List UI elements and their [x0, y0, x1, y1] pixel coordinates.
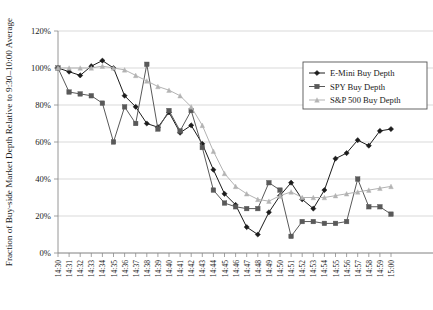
y-axis-title: Fraction of Buy-side Market Depth Relati… [4, 18, 14, 266]
data-point-marker [322, 221, 327, 226]
data-point-marker [344, 219, 349, 224]
y-tick-label: 100% [31, 63, 51, 73]
data-point-marker [244, 206, 249, 211]
x-axis: 14:3014:3114:3214:3314:3414:3514:3614:37… [54, 253, 433, 277]
data-point-marker [355, 177, 360, 182]
data-point-marker [311, 219, 316, 224]
y-tick-label: 20% [35, 211, 51, 221]
x-tick-label: 14:43 [198, 260, 207, 278]
x-tick-label: 14:52 [298, 260, 307, 278]
data-point-marker [278, 188, 283, 193]
data-point-marker [289, 234, 294, 239]
x-tick-label: 14:48 [254, 260, 263, 278]
x-tick-label: 14:41 [176, 260, 185, 278]
x-tick-label: 14:42 [187, 260, 196, 278]
data-point-marker [267, 180, 272, 185]
y-tick-label: 120% [31, 26, 51, 36]
x-tick-label: 14:47 [243, 260, 252, 278]
x-tick-label: 14:56 [343, 260, 352, 278]
data-point-marker [315, 84, 320, 89]
x-tick-label: 14:57 [354, 260, 363, 278]
data-point-marker [189, 123, 194, 128]
x-tick-label: 15:00 [387, 260, 396, 278]
data-point-marker [322, 188, 327, 193]
data-point-marker [122, 105, 127, 110]
data-point-marker [222, 171, 227, 176]
data-point-marker [100, 58, 105, 63]
x-tick-label: 14:44 [209, 260, 218, 278]
y-tick-label: 0% [40, 248, 51, 258]
data-point-marker [78, 92, 83, 97]
y-tick-label: 60% [35, 137, 51, 147]
x-tick-label: 14:46 [232, 260, 241, 278]
data-point-marker [266, 210, 271, 215]
data-point-marker [211, 149, 216, 154]
data-point-marker [178, 129, 183, 134]
x-tick-label: 14:34 [98, 260, 107, 278]
data-point-marker [133, 73, 138, 78]
data-point-marker [211, 167, 216, 172]
legend-label: E-Mini Buy Depth [330, 68, 395, 78]
data-point-marker [67, 90, 72, 95]
x-tick-label: 14:35 [110, 260, 119, 278]
chart-container: 0%20%40%60%80%100%120% 14:3014:3114:3214… [0, 0, 433, 310]
x-tick-label: 14:58 [365, 260, 374, 278]
line-chart: 0%20%40%60%80%100%120% 14:3014:3114:3214… [0, 0, 433, 310]
data-point-marker [100, 101, 105, 106]
x-tick-label: 14:45 [221, 260, 230, 278]
data-point-marker [156, 127, 161, 132]
x-tick-label: 14:49 [265, 260, 274, 278]
data-point-marker [255, 232, 260, 237]
data-point-marker [111, 140, 116, 145]
data-point-marker [289, 190, 294, 195]
x-tick-label: 14:36 [121, 260, 130, 278]
y-axis-title-text: Fraction of Buy-side Market Depth Relati… [4, 18, 14, 266]
data-point-marker [178, 93, 183, 98]
x-tick-label: 14:51 [287, 260, 296, 278]
data-point-marker [333, 156, 338, 161]
data-point-marker [233, 204, 238, 209]
legend-label: S&P 500 Buy Depth [330, 95, 401, 105]
data-point-marker [388, 126, 393, 131]
data-point-marker [300, 219, 305, 224]
data-point-marker [244, 225, 249, 230]
data-point-marker [144, 121, 149, 126]
x-tick-label: 14:50 [276, 260, 285, 278]
y-axis: 0%20%40%60%80%100%120% [31, 26, 58, 258]
data-point-marker [167, 88, 172, 93]
data-point-marker [200, 123, 205, 128]
y-tick-label: 80% [35, 100, 51, 110]
x-tick-label: 14:40 [165, 260, 174, 278]
data-point-marker [367, 204, 372, 209]
x-tick-label: 14:33 [87, 260, 96, 278]
data-point-marker [222, 201, 227, 206]
x-tick-label: 14:32 [76, 260, 85, 278]
y-tick-label: 40% [35, 174, 51, 184]
x-tick-label: 14:38 [143, 260, 152, 278]
data-point-marker [256, 206, 261, 211]
data-point-marker [89, 93, 94, 98]
x-tick-label: 14:53 [309, 260, 318, 278]
x-tick-label: 14:39 [154, 260, 163, 278]
x-tick-label: 14:55 [332, 260, 341, 278]
x-tick-label: 14:59 [376, 260, 385, 278]
data-point-marker [333, 221, 338, 226]
data-point-marker [145, 62, 150, 67]
data-point-marker [133, 121, 138, 126]
x-tick-label: 14:37 [132, 260, 141, 278]
data-point-marker [156, 84, 161, 89]
x-tick-label: 14:31 [65, 260, 74, 278]
data-point-marker [167, 108, 172, 113]
x-tick-label: 14:54 [320, 260, 329, 278]
chart-legend: E-Mini Buy DepthSPY Buy DepthS&P 500 Buy… [303, 62, 427, 109]
x-tick-label: 14:30 [54, 260, 63, 278]
data-point-marker [378, 204, 383, 209]
data-point-marker [389, 212, 394, 217]
data-point-marker [200, 145, 205, 150]
legend-label: SPY Buy Depth [330, 82, 386, 92]
data-point-marker [211, 188, 216, 193]
data-point-marker [145, 79, 150, 84]
